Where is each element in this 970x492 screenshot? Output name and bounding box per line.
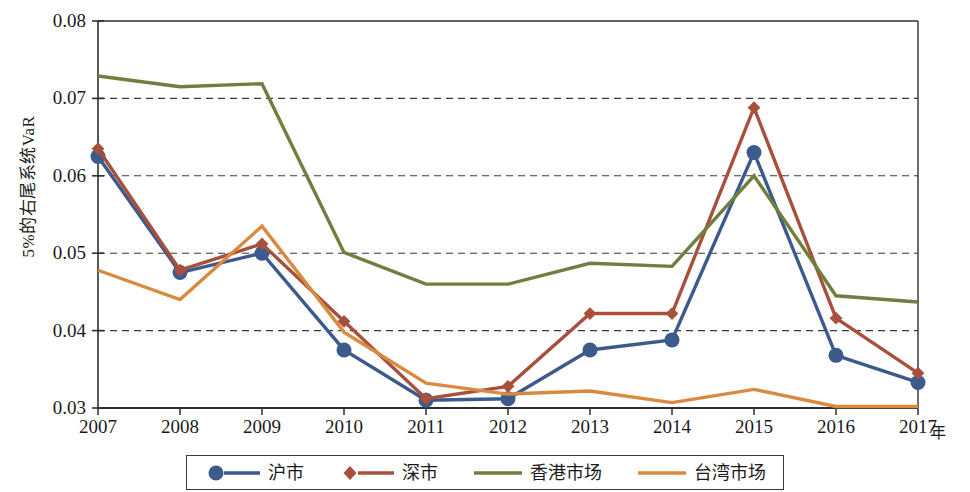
- legend-label: 沪市: [268, 464, 304, 482]
- x-axis-tick-label: 2012: [468, 417, 548, 436]
- series-line: [98, 76, 918, 302]
- data-point-marker: [337, 342, 352, 357]
- x-axis-tick-label: 2014: [632, 417, 712, 436]
- data-series-group: [91, 76, 926, 408]
- x-axis-tick-label: 2008: [140, 417, 220, 436]
- axis-ticks: [92, 21, 918, 415]
- data-point-marker: [829, 348, 844, 363]
- data-point-marker: [748, 101, 761, 114]
- data-point-marker: [747, 145, 762, 160]
- legend-item[interactable]: 深市: [338, 463, 438, 483]
- legend-swatch-circle-icon: [204, 463, 262, 483]
- x-axis-tick-label: 2011: [386, 417, 466, 436]
- x-axis-tick-label: 2010: [304, 417, 384, 436]
- legend-swatch-line-icon: [636, 463, 688, 483]
- data-point-marker: [583, 342, 598, 357]
- chart-figure: 5%的右尾系统VaR 0.030.040.050.060.070.08 2007…: [0, 0, 970, 492]
- x-axis-tick-label: 2015: [714, 417, 794, 436]
- legend-item[interactable]: 台湾市场: [636, 463, 766, 483]
- data-point-marker: [665, 332, 680, 347]
- legend-item[interactable]: 沪市: [204, 463, 304, 483]
- series-line: [98, 153, 918, 401]
- x-axis-tick-label: 2016: [796, 417, 876, 436]
- x-axis-tick-label: 2013: [550, 417, 630, 436]
- legend-label: 深市: [402, 464, 438, 482]
- series-2: [98, 76, 918, 302]
- x-axis-tick-label: 2009: [222, 417, 302, 436]
- x-axis-unit-label: 年: [930, 419, 946, 443]
- x-axis-tick-label: 2007: [58, 417, 138, 436]
- x-axis-tick-label: 2017: [878, 417, 958, 436]
- series-0: [91, 145, 926, 408]
- legend-item[interactable]: 香港市场: [472, 463, 602, 483]
- legend-label: 台湾市场: [694, 464, 766, 482]
- chart-legend: 沪市深市香港市场台湾市场: [186, 455, 784, 490]
- legend-label: 香港市场: [530, 464, 602, 482]
- legend-swatch-diamond-icon: [338, 463, 396, 483]
- data-point-marker: [666, 307, 679, 320]
- legend-swatch-line-icon: [472, 463, 524, 483]
